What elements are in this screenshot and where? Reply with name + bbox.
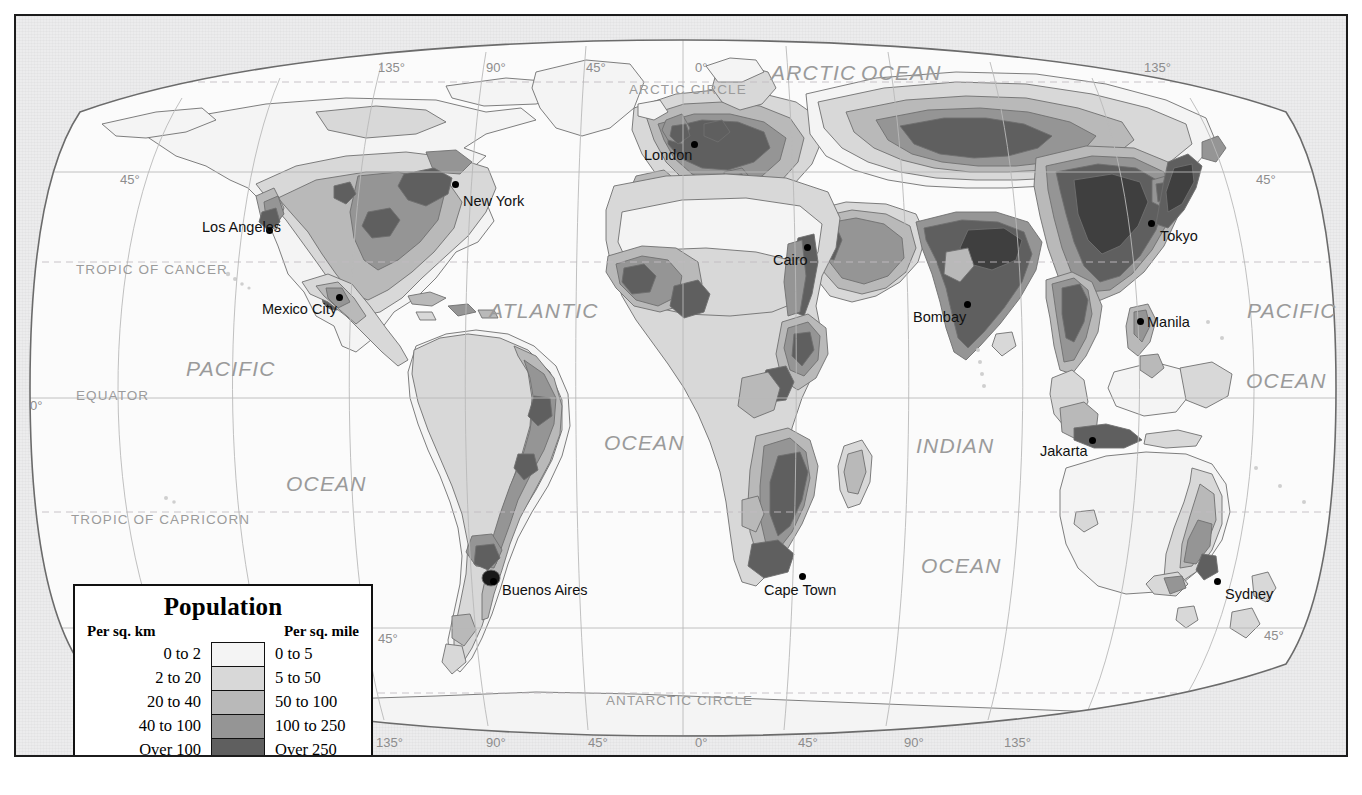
city-marker-dot[interactable] [490, 578, 497, 585]
legend-swatch [211, 690, 265, 714]
city-marker-dot[interactable] [336, 294, 343, 301]
population-legend: Population Per sq. km Per sq. mile 0 to … [73, 584, 373, 757]
legend-range-per-sq-km: 40 to 100 [85, 716, 211, 736]
city-marker-dot[interactable] [1089, 437, 1096, 444]
legend-range-per-sq-mile: Over 250 [265, 740, 361, 757]
city-marker-dot[interactable] [804, 244, 811, 251]
city-marker-dot[interactable] [799, 573, 806, 580]
legend-title: Population [85, 594, 361, 620]
legend-range-per-sq-km: 0 to 2 [85, 644, 211, 664]
legend-row: Over 100Over 250 [85, 738, 361, 757]
legend-header-per-sq-km: Per sq. km [87, 623, 155, 640]
legend-row: 2 to 205 to 50 [85, 666, 361, 690]
legend-range-per-sq-km: 2 to 20 [85, 668, 211, 688]
city-marker-dot[interactable] [1137, 318, 1144, 325]
legend-range-per-sq-mile: 50 to 100 [265, 692, 361, 712]
legend-swatch [211, 666, 265, 690]
legend-row: 0 to 20 to 5 [85, 642, 361, 666]
legend-range-per-sq-mile: 5 to 50 [265, 668, 361, 688]
legend-rows: 0 to 20 to 52 to 205 to 5020 to 4050 to … [85, 642, 361, 757]
city-marker-dot[interactable] [266, 227, 273, 234]
legend-range-per-sq-km: 20 to 40 [85, 692, 211, 712]
city-marker-dot[interactable] [691, 141, 698, 148]
city-marker-dot[interactable] [1214, 578, 1221, 585]
legend-swatch [211, 714, 265, 738]
map-plate: ARCTICOCEANPACIFICOCEANATLANTICOCEANINDI… [14, 14, 1348, 757]
legend-range-per-sq-mile: 100 to 250 [265, 716, 361, 736]
legend-header-per-sq-mile: Per sq. mile [284, 623, 359, 640]
legend-row: 40 to 100100 to 250 [85, 714, 361, 738]
legend-column-headers: Per sq. km Per sq. mile [85, 623, 361, 642]
legend-range-per-sq-mile: 0 to 5 [265, 644, 361, 664]
legend-row: 20 to 4050 to 100 [85, 690, 361, 714]
page-root: ARCTICOCEANPACIFICOCEANATLANTICOCEANINDI… [0, 0, 1362, 795]
legend-swatch [211, 642, 265, 666]
city-marker-dot[interactable] [452, 181, 459, 188]
legend-range-per-sq-km: Over 100 [85, 740, 211, 757]
legend-swatch [211, 738, 265, 757]
city-marker-dot[interactable] [964, 301, 971, 308]
city-marker-dot[interactable] [1148, 220, 1155, 227]
